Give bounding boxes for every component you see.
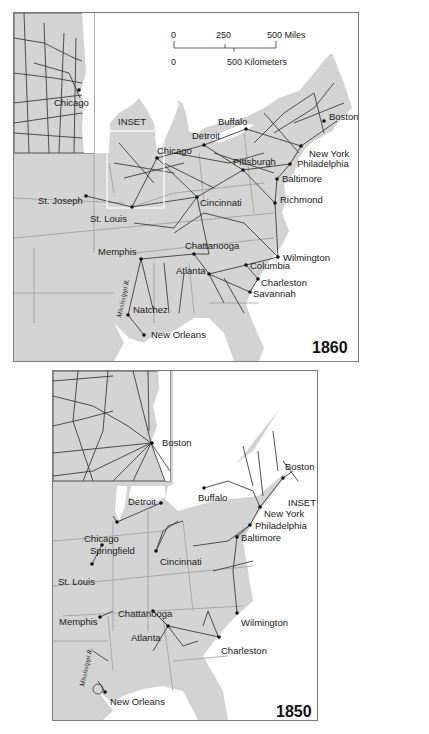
city-st-joseph: St. Joseph [38, 194, 88, 206]
svg-text:Chattanooga: Chattanooga [185, 240, 240, 251]
city-springfield: Springfield [90, 543, 135, 556]
svg-text:Memphis: Memphis [98, 246, 137, 257]
svg-text:Wilmington: Wilmington [241, 617, 288, 628]
svg-text:Charleston: Charleston [221, 645, 267, 656]
city-baltimore: Baltimore [235, 532, 281, 543]
city-cincinnati: Cincinnati [195, 195, 242, 208]
map-1860: 0 250 500 Miles 0 500 Kilometers Chicago… [13, 12, 359, 362]
city-richmond: Richmond [273, 194, 323, 205]
svg-text:Baltimore: Baltimore [282, 173, 322, 184]
svg-text:St. Louis: St. Louis [90, 213, 127, 224]
city-charleston: Charleston [217, 635, 267, 656]
svg-text:Boston: Boston [285, 461, 315, 472]
city-charleston: Charleston [256, 277, 307, 288]
svg-text:St. Joseph: St. Joseph [38, 195, 83, 206]
svg-text:Detroit: Detroit [128, 496, 156, 507]
map-1850-canvas: Boston Boston Buffalo INSET Detroit New … [53, 371, 317, 720]
city-baltimore: Baltimore [275, 173, 322, 184]
city-wilmington: Wilmington [235, 611, 288, 628]
svg-text:Chicago: Chicago [157, 145, 192, 156]
svg-text:Cincinnati: Cincinnati [200, 197, 242, 208]
inset-label: INSET [288, 497, 316, 508]
year-label-1850: 1850 [276, 703, 312, 720]
city-natchez: Natchez [126, 304, 168, 317]
svg-text:Buffalo: Buffalo [218, 116, 247, 127]
city-columbia: Columbia [244, 260, 291, 271]
svg-text:St. Louis: St. Louis [58, 576, 95, 587]
scale-miles-250: 250 [216, 30, 231, 40]
city-dot [77, 88, 81, 92]
svg-text:New Orleans: New Orleans [110, 696, 165, 707]
svg-text:Memphis: Memphis [59, 616, 98, 627]
city-savannah: Savannah [248, 288, 296, 299]
svg-text:Savannah: Savannah [253, 288, 296, 299]
city-new-orleans: New Orleans [142, 329, 206, 340]
svg-text:Buffalo: Buffalo [198, 492, 227, 503]
map-1860-canvas: 0 250 500 Miles 0 500 Kilometers Chicago… [14, 13, 358, 361]
svg-text:INSET: INSET [288, 497, 316, 508]
svg-text:Richmond: Richmond [280, 194, 323, 205]
svg-text:Baltimore: Baltimore [241, 532, 281, 543]
svg-text:Natchez: Natchez [133, 304, 168, 315]
svg-text:Atlanta: Atlanta [176, 265, 206, 276]
svg-text:Charleston: Charleston [261, 277, 307, 288]
svg-text:Springfield: Springfield [90, 545, 135, 556]
scale-miles-500: 500 Miles [267, 30, 306, 40]
svg-text:Philadelphia: Philadelphia [297, 158, 349, 169]
svg-text:Chicago: Chicago [84, 533, 119, 544]
city-philadelphia: Philadelphia [248, 520, 307, 531]
scale-km-0: 0 [171, 57, 176, 67]
map-1850: Boston Boston Buffalo INSET Detroit New … [52, 370, 318, 721]
city-memphis: Memphis [59, 615, 102, 627]
svg-text:Cincinnati: Cincinnati [160, 556, 202, 567]
city-dot [150, 441, 154, 445]
inset-city-label: Boston [162, 437, 192, 448]
svg-text:Chattanooga: Chattanooga [118, 608, 173, 619]
year-label-1860: 1860 [312, 339, 348, 356]
city-philadelphia: Philadelphia [288, 158, 349, 169]
inset-label: INSET [118, 116, 146, 127]
svg-text:New Orleans: New Orleans [151, 329, 206, 340]
svg-text:Pittsburgh: Pittsburgh [233, 156, 276, 167]
svg-text:Detroit: Detroit [192, 130, 220, 141]
city-new-york: New York [258, 505, 304, 519]
scale-miles-0: 0 [171, 30, 176, 40]
svg-text:Philadelphia: Philadelphia [255, 520, 307, 531]
svg-text:Atlanta: Atlanta [131, 632, 161, 643]
inset-city-label: Chicago [54, 97, 89, 108]
svg-text:New York: New York [264, 508, 304, 519]
city-boston: Boston [281, 461, 314, 480]
svg-text:Columbia: Columbia [250, 260, 291, 271]
scale-km-500: 500 Kilometers [227, 57, 288, 67]
svg-text:Boston: Boston [329, 111, 358, 122]
city-chattanooga: Chattanooga [118, 608, 173, 619]
